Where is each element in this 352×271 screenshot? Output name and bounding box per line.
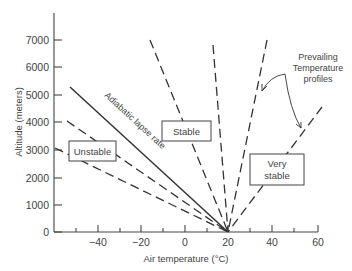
- x-tick-0: 0: [182, 236, 188, 248]
- stable-profile-2: [213, 45, 228, 232]
- y-axis-title: Altitude (meters): [13, 87, 24, 157]
- x-tick-labels: −40 −20 0 20 40 60: [89, 236, 324, 248]
- x-tick-40: 40: [266, 236, 278, 248]
- y-tick-6000: 6000: [26, 61, 50, 73]
- unstable-label-box: Unstable: [69, 141, 116, 161]
- arrow-to-profile-1: [262, 74, 285, 91]
- very-stable-label-line1: Very: [267, 158, 286, 169]
- y-tick-0: 0: [43, 226, 49, 238]
- stable-label-box: Stable: [162, 121, 211, 141]
- prevailing-line1: Prevailing: [298, 52, 338, 62]
- unstable-label: Unstable: [74, 146, 112, 157]
- y-tick-3000: 3000: [26, 144, 50, 156]
- x-axis: [54, 225, 318, 232]
- y-tick-7000: 7000: [26, 34, 50, 46]
- prevailing-annotation: Prevailing Temperature profiles: [262, 52, 343, 128]
- arrow-to-profile-2: [285, 74, 301, 128]
- prevailing-line3: profiles: [303, 74, 333, 84]
- y-tick-1000: 1000: [26, 199, 50, 211]
- very-stable-profile-1: [228, 40, 267, 232]
- x-tick-neg40: −40: [89, 236, 107, 248]
- stable-label: Stable: [173, 126, 200, 137]
- y-axis: [54, 13, 62, 232]
- y-tick-labels: 0 1000 2000 3000 4000 5000 6000 7000: [26, 34, 50, 238]
- x-tick-20: 20: [222, 236, 234, 248]
- lapse-rate-diagram: 0 1000 2000 3000 4000 5000 6000 7000 Alt…: [0, 0, 352, 271]
- y-tick-5000: 5000: [26, 89, 50, 101]
- very-stable-label-line2: stable: [264, 170, 289, 181]
- x-tick-neg20: −20: [132, 236, 150, 248]
- y-tick-4000: 4000: [26, 116, 50, 128]
- y-tick-2000: 2000: [26, 172, 50, 184]
- prevailing-line2: Temperature: [293, 63, 344, 73]
- x-tick-60: 60: [312, 236, 324, 248]
- x-axis-title: Air temperature (°C): [143, 253, 228, 264]
- very-stable-label-box: Very stable: [250, 154, 304, 185]
